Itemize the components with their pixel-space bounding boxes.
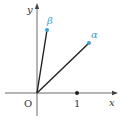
vector-alpha-line <box>37 43 89 93</box>
y-axis-label: y <box>26 4 33 15</box>
vector-beta-line <box>37 30 47 93</box>
x-axis-label: x <box>109 97 115 108</box>
origin-label: O <box>24 98 32 109</box>
alpha-label: α <box>91 29 98 40</box>
unit-tick-point <box>75 91 79 95</box>
beta-point <box>45 28 49 32</box>
vector-diagram: y x O 1 β α <box>0 0 120 122</box>
beta-label: β <box>46 15 53 26</box>
alpha-point <box>87 41 91 45</box>
y-axis-arrow-icon <box>35 3 39 9</box>
x-axis-arrow-icon <box>112 91 118 95</box>
tick-label-1: 1 <box>74 98 80 109</box>
